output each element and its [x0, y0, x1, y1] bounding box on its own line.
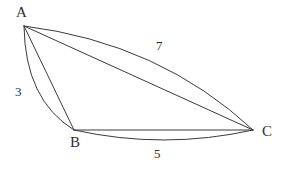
- vertex-label-c: C: [262, 124, 272, 139]
- edge-line-ab: [24, 26, 74, 130]
- edge-line-ac: [24, 26, 253, 130]
- side-length-label-ab: 3: [15, 85, 22, 98]
- geometry-figure: A B C 7 3 5: [0, 0, 286, 170]
- geometry-canvas: [0, 0, 286, 170]
- side-length-label-ac: 7: [156, 39, 163, 52]
- vertex-label-a: A: [16, 5, 27, 20]
- vertex-label-b: B: [70, 135, 80, 150]
- side-length-label-bc: 5: [154, 147, 161, 160]
- edge-arc-bc: [74, 130, 253, 140]
